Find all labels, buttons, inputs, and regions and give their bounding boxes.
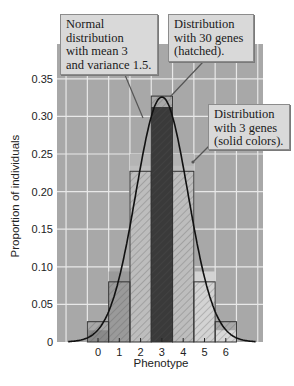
y-tick-label: 0.20 (32, 186, 53, 198)
y-tick-label: 0.15 (32, 223, 53, 235)
x-tick-label: 1 (116, 346, 122, 358)
y-tick-label: 0.35 (32, 73, 53, 85)
y-tick-label: 0.05 (32, 298, 53, 310)
y-tick-label: 0 (47, 336, 53, 348)
callout-line: and variance 1.5. (66, 59, 152, 73)
callout-line: Distribution (214, 108, 284, 122)
x-tick-label: 0 (95, 346, 101, 358)
callout-line: (hatched). (174, 45, 248, 59)
callout-line: distribution (66, 32, 152, 46)
y-tick-label: 0.25 (32, 148, 53, 160)
callout-line: Normal (66, 18, 152, 32)
x-tick-label: 6 (223, 346, 229, 358)
callout-3-genes: Distribution with 3 genes (solid colors)… (208, 104, 290, 150)
callout-line: with 30 genes (174, 32, 248, 46)
y-tick-label: 0.30 (32, 110, 53, 122)
callout-30-genes: Distribution with 30 genes (hatched). (168, 14, 254, 62)
callout-line: Distribution (174, 18, 248, 32)
x-axis-label: Phenotype (134, 357, 189, 369)
callout-line: (solid colors). (214, 135, 284, 149)
callout-normal-distribution: Normal distribution with mean 3 and vari… (60, 14, 158, 75)
callout-line: with 3 genes (214, 122, 284, 136)
x-tick-label: 5 (201, 346, 207, 358)
y-tick-label: 0.10 (32, 261, 53, 273)
y-axis-ticks: 00.050.100.150.200.250.300.35 (32, 73, 53, 348)
y-axis-label: Proportion of individuals (9, 134, 21, 257)
callout-line: with mean 3 (66, 45, 152, 59)
